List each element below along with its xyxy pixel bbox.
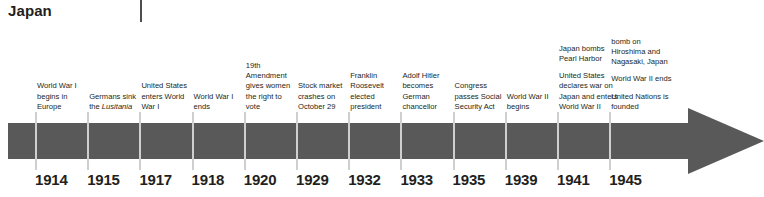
event-label: United Nations is founded bbox=[611, 92, 673, 112]
tick-line-1914 bbox=[35, 112, 37, 170]
timeline-column-1935: Congress passes Social Security Act1935 bbox=[453, 0, 505, 197]
event-list-1915: Germans sink the Lusitania bbox=[89, 92, 139, 112]
year-label-1935: 1935 bbox=[453, 171, 486, 188]
event-label: World War II ends bbox=[611, 74, 673, 84]
event-list-1914: World War I begins in Europe bbox=[37, 81, 87, 112]
tick-line-1917 bbox=[139, 112, 141, 170]
event-label: 19th Amendment gives women the right to … bbox=[246, 61, 296, 112]
timeline-column-1920: 19th Amendment gives women the right to … bbox=[244, 0, 296, 197]
timeline-column-1933: Adolf Hitler becomes German chancellor19… bbox=[400, 0, 452, 197]
tick-line-1935 bbox=[453, 112, 455, 170]
event-list-1932: Franklin Roosevelt elected president bbox=[350, 71, 400, 112]
event-label: Congress passes Social Security Act bbox=[455, 81, 505, 112]
timeline-column-1939: World War II begins1939 bbox=[505, 0, 557, 197]
year-label-1945: 1945 bbox=[609, 171, 642, 188]
tick-line-1939 bbox=[505, 112, 507, 170]
year-label-1941: 1941 bbox=[557, 171, 590, 188]
year-label-1933: 1933 bbox=[400, 171, 433, 188]
event-list-1917: United States enters World War I bbox=[141, 81, 191, 112]
event-label: World War I ends bbox=[194, 92, 244, 112]
event-list-1945: bomb on Hiroshima and Nagasaki, JapanWor… bbox=[611, 37, 661, 112]
tick-line-1945 bbox=[609, 112, 611, 170]
timeline-column-1914: World War I begins in Europe1914 bbox=[35, 0, 87, 197]
tick-line-1941 bbox=[557, 112, 559, 170]
year-label-1917: 1917 bbox=[139, 171, 172, 188]
year-label-1929: 1929 bbox=[296, 171, 329, 188]
event-list-1933: Adolf Hitler becomes German chancellor bbox=[402, 71, 452, 112]
year-label-1915: 1915 bbox=[87, 171, 120, 188]
tick-line-1932 bbox=[348, 112, 350, 170]
tick-line-1918 bbox=[192, 112, 194, 170]
tick-line-1920 bbox=[244, 112, 246, 170]
event-list-1918: World War I ends bbox=[194, 92, 244, 112]
event-label: bomb on Hiroshima and Nagasaki, Japan bbox=[611, 37, 673, 68]
event-list-1941: Japan bombs Pearl HarborUnited States de… bbox=[559, 44, 609, 112]
tick-line-1933 bbox=[400, 112, 402, 170]
tick-line-1915 bbox=[87, 112, 89, 170]
event-label: World War II begins bbox=[507, 92, 557, 112]
event-label: Franklin Roosevelt elected president bbox=[350, 71, 400, 112]
tick-line-1929 bbox=[296, 112, 298, 170]
event-label: Germans sink the Lusitania bbox=[89, 92, 139, 112]
timeline-column-1915: Germans sink the Lusitania1915 bbox=[87, 0, 139, 197]
year-label-1914: 1914 bbox=[35, 171, 68, 188]
event-list-1929: Stock market crashes on October 29 bbox=[298, 81, 348, 112]
event-label: Stock market crashes on October 29 bbox=[298, 81, 348, 112]
timeline-column-1918: World War I ends1918 bbox=[192, 0, 244, 197]
year-label-1920: 1920 bbox=[244, 171, 277, 188]
event-list-1935: Congress passes Social Security Act bbox=[455, 81, 505, 112]
year-label-1932: 1932 bbox=[348, 171, 381, 188]
year-label-1918: 1918 bbox=[192, 171, 225, 188]
event-list-1939: World War II begins bbox=[507, 92, 557, 112]
year-label-1939: 1939 bbox=[505, 171, 538, 188]
event-label: Adolf Hitler becomes German chancellor bbox=[402, 71, 452, 112]
event-list-1920: 19th Amendment gives women the right to … bbox=[246, 61, 296, 112]
event-label: United States enters World War I bbox=[141, 81, 191, 112]
timeline-column-1929: Stock market crashes on October 291929 bbox=[296, 0, 348, 197]
timeline-arrowhead-icon bbox=[688, 108, 764, 174]
timeline-column-1932: Franklin Roosevelt elected president1932 bbox=[348, 0, 400, 197]
timeline-column-1917: United States enters World War I1917 bbox=[139, 0, 191, 197]
event-label: World War I begins in Europe bbox=[37, 81, 87, 112]
timeline-column-1941: Japan bombs Pearl HarborUnited States de… bbox=[557, 0, 609, 197]
timeline-column-1945: bomb on Hiroshima and Nagasaki, JapanWor… bbox=[609, 0, 661, 197]
